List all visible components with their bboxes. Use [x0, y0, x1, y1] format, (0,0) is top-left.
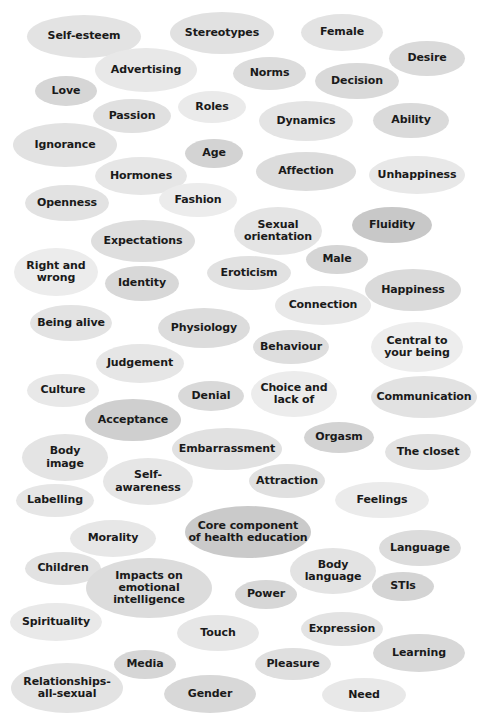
word-bubble-label: Stereotypes: [172, 27, 272, 39]
word-bubble-label: Physiology: [160, 322, 248, 334]
word-bubble-label: Culture: [29, 384, 97, 396]
word-bubble-label: Being alive: [32, 317, 110, 329]
word-bubble: Acceptance: [85, 399, 181, 441]
word-bubble-label: Self- awareness: [105, 469, 191, 494]
word-bubble-label: Love: [37, 85, 95, 97]
word-bubble: Power: [235, 580, 297, 609]
word-bubble-label: Body language: [292, 559, 374, 584]
word-bubble-label: Orgasm: [306, 431, 372, 443]
word-bubble: STIs: [372, 572, 434, 601]
word-bubble: Connection: [275, 286, 371, 325]
word-bubble-label: Expectations: [93, 235, 193, 247]
word-bubble-label: Labelling: [18, 494, 92, 506]
word-bubble: Labelling: [16, 484, 94, 517]
word-bubble: Happiness: [365, 269, 461, 311]
word-bubble: Age: [185, 139, 243, 168]
word-bubble-label: Body image: [24, 445, 106, 470]
word-bubble-label: Right and wrong: [16, 260, 96, 285]
word-bubble: Ability: [373, 103, 449, 138]
word-bubble-label: Impacts on emotional intelligence: [88, 570, 210, 607]
word-bubble: Language: [379, 530, 461, 566]
word-bubble-label: Happiness: [367, 284, 459, 296]
word-bubble: Need: [322, 678, 406, 712]
word-bubble: Being alive: [30, 305, 112, 341]
word-bubble: Behaviour: [253, 330, 329, 364]
word-bubble-label: Unhappiness: [371, 169, 463, 181]
word-bubble-label: Judgement: [98, 357, 182, 369]
word-bubble: Self- awareness: [103, 458, 193, 505]
word-bubble: Learning: [373, 634, 465, 672]
word-cloud-canvas: Self-esteemStereotypesFemaleDesireAdvert…: [0, 0, 488, 726]
word-bubble: Core component of health education: [185, 506, 311, 558]
word-bubble-label: Denial: [180, 390, 242, 402]
word-bubble-label: Feelings: [337, 494, 427, 506]
word-bubble: Relationships- all-sexual: [11, 663, 123, 713]
word-bubble: Media: [114, 650, 176, 679]
word-bubble-label: Central to your being: [373, 335, 461, 360]
word-bubble: Roles: [178, 91, 246, 123]
word-bubble-label: Norms: [235, 67, 304, 79]
word-bubble: Judgement: [96, 344, 184, 383]
word-bubble-label: Core component of health education: [187, 520, 309, 545]
word-bubble-label: Hormones: [97, 170, 185, 182]
word-bubble-label: Relationships- all-sexual: [13, 676, 121, 701]
word-bubble-label: Ignorance: [15, 139, 115, 151]
word-bubble: Fashion: [159, 183, 237, 217]
word-bubble-label: Affection: [258, 165, 354, 177]
word-bubble: Gender: [164, 675, 256, 713]
word-bubble-label: Dynamics: [261, 115, 351, 127]
word-bubble-label: Sexual orientation: [236, 219, 320, 244]
word-bubble: Openness: [25, 185, 109, 221]
word-bubble: Female: [301, 14, 383, 51]
word-bubble: Central to your being: [371, 322, 463, 372]
word-bubble: Expectations: [91, 220, 195, 262]
word-bubble: Body language: [290, 548, 376, 594]
word-bubble-label: Openness: [27, 197, 107, 209]
word-bubble-label: Language: [381, 542, 459, 554]
word-bubble-label: STIs: [374, 580, 432, 592]
word-bubble-label: Ability: [375, 114, 447, 126]
word-bubble: Fluidity: [352, 207, 432, 243]
word-bubble: Male: [306, 245, 368, 274]
word-bubble-label: Decision: [317, 75, 397, 87]
word-bubble: Spirituality: [10, 603, 102, 641]
word-bubble: Body image: [22, 434, 108, 481]
word-bubble-label: Communication: [373, 391, 475, 403]
word-bubble-label: Fluidity: [354, 219, 430, 231]
word-bubble-label: Behaviour: [255, 341, 327, 353]
word-bubble-label: Pleasure: [257, 658, 329, 670]
word-bubble-label: Roles: [180, 101, 244, 113]
word-bubble: Unhappiness: [369, 156, 465, 194]
word-bubble: Passion: [93, 99, 171, 133]
word-bubble-label: Male: [308, 253, 366, 265]
word-bubble: Orgasm: [304, 422, 374, 453]
word-bubble: Feelings: [335, 482, 429, 518]
word-bubble: Sexual orientation: [234, 207, 322, 255]
word-bubble: Pleasure: [255, 648, 331, 680]
word-bubble: Culture: [27, 374, 99, 407]
word-bubble: Desire: [389, 41, 465, 76]
word-bubble: Morality: [70, 520, 156, 557]
word-bubble-label: Learning: [375, 647, 463, 659]
word-bubble-label: Need: [324, 689, 404, 701]
word-bubble: Stereotypes: [170, 12, 274, 54]
word-bubble: Denial: [178, 381, 244, 411]
word-bubble-label: Morality: [72, 532, 154, 544]
word-bubble: Ignorance: [13, 123, 117, 167]
word-bubble-label: Gender: [166, 688, 254, 700]
word-bubble: Physiology: [158, 308, 250, 348]
word-bubble-label: Acceptance: [87, 414, 179, 426]
word-bubble-label: Age: [187, 147, 241, 159]
word-bubble-label: Advertising: [97, 64, 195, 76]
word-bubble-label: Touch: [179, 627, 257, 639]
word-bubble-label: Female: [303, 26, 381, 38]
word-bubble: Impacts on emotional intelligence: [86, 558, 212, 618]
word-bubble-label: Choice and lack of: [253, 382, 335, 407]
word-bubble: Norms: [233, 57, 306, 90]
word-bubble: Embarrassment: [172, 428, 282, 470]
word-bubble: Identity: [105, 266, 179, 301]
word-bubble-label: Expression: [303, 623, 381, 635]
word-bubble: Advertising: [95, 48, 197, 92]
word-bubble: Affection: [256, 152, 356, 191]
word-bubble: Eroticism: [207, 256, 291, 290]
